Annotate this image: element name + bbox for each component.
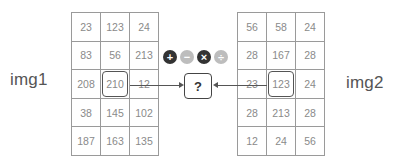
pixel-cell: 83 — [72, 41, 101, 70]
grid-row: 187 163 135 — [72, 127, 159, 156]
pixel-cell: 213 — [130, 41, 159, 70]
pixel-cell: 12 — [130, 70, 159, 99]
grid-row: 38 145 102 — [72, 98, 159, 127]
arrowhead-left-icon — [213, 82, 218, 88]
highlight-box: 123 — [268, 71, 294, 97]
arrow-from-img1 — [130, 85, 180, 86]
grid-row: 83 56 213 — [72, 41, 159, 70]
pixel-cell: 56 — [101, 41, 130, 70]
pixel-cell: 56 — [296, 127, 325, 156]
add-operator-icon: + — [163, 50, 177, 64]
highlighted-pixel-cell: 123 — [267, 70, 296, 99]
grid-row: 208 210 12 — [72, 70, 159, 99]
pixel-cell: 145 — [101, 98, 130, 127]
pixel-cell: 56 — [238, 13, 267, 42]
pixel-cell: 28 — [238, 98, 267, 127]
pixel-cell: 24 — [267, 127, 296, 156]
pixel-cell: 208 — [72, 70, 101, 99]
pixel-cell: 12 — [238, 127, 267, 156]
img1-grid: 23 123 24 83 56 213 208 210 12 38 145 10… — [71, 12, 159, 156]
divide-operator-icon: ÷ — [214, 50, 228, 64]
grid-row: 12 24 56 — [238, 127, 325, 156]
pixel-cell: 167 — [267, 41, 296, 70]
pixel-cell: 123 — [101, 13, 130, 42]
pixel-cell: 24 — [130, 13, 159, 42]
grid-row: 56 58 24 — [238, 13, 325, 42]
pixel-cell: 28 — [296, 98, 325, 127]
pixel-cell: 23 — [238, 70, 267, 99]
pixel-cell: 24 — [296, 13, 325, 42]
pixel-cell: 187 — [72, 127, 101, 156]
pixel-cell: 28 — [238, 41, 267, 70]
pixel-cell: 58 — [267, 13, 296, 42]
img2-grid: 56 58 24 28 167 28 23 123 24 28 213 28 1… — [237, 12, 325, 156]
pixel-cell: 163 — [101, 127, 130, 156]
img1-label: img1 — [10, 70, 48, 90]
pixel-cell: 38 — [72, 98, 101, 127]
highlight-box: 210 — [102, 71, 128, 97]
subtract-operator-icon: − — [180, 50, 194, 64]
result-box: ? — [184, 73, 212, 99]
pixel-cell: 24 — [296, 70, 325, 99]
pixel-cell: 135 — [130, 127, 159, 156]
img2-label: img2 — [346, 73, 384, 93]
pixel-cell: 23 — [72, 13, 101, 42]
multiply-operator-icon: × — [197, 50, 211, 64]
pixel-cell: 102 — [130, 98, 159, 127]
highlighted-pixel-cell: 210 — [101, 70, 130, 99]
arrow-from-img2 — [217, 85, 267, 86]
grid-row: 28 213 28 — [238, 98, 325, 127]
pixel-cell: 28 — [296, 41, 325, 70]
grid-row: 23 123 24 — [238, 70, 325, 99]
grid-row: 28 167 28 — [238, 41, 325, 70]
grid-row: 23 123 24 — [72, 13, 159, 42]
pixel-cell: 213 — [267, 98, 296, 127]
